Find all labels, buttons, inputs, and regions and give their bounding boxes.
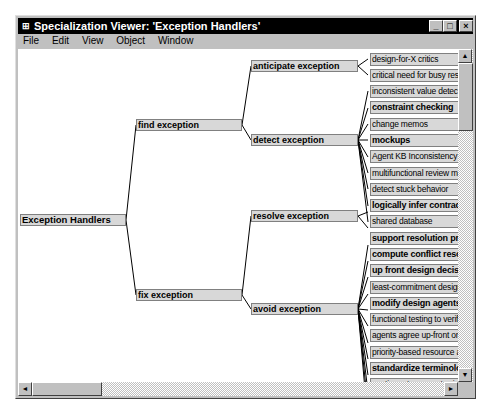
minimize-button[interactable]: _ bbox=[429, 20, 443, 32]
leaf-node[interactable]: inconsistent value detection bbox=[370, 85, 458, 98]
leaf-node[interactable]: agents agree up-front on coordination bbox=[370, 329, 458, 342]
menu-view[interactable]: View bbox=[77, 34, 109, 48]
tree-node-detect-exception[interactable]: detect exception bbox=[251, 134, 358, 146]
leaf-node[interactable]: compute conflict resolution bbox=[370, 248, 458, 261]
scroll-right-button[interactable]: ► bbox=[444, 382, 458, 396]
leaf-node[interactable]: priority-based resource allocation bbox=[370, 346, 458, 359]
scroll-left-button[interactable]: ◄ bbox=[18, 382, 32, 396]
horizontal-scrollbar[interactable]: ◄ ► bbox=[18, 382, 458, 396]
title-bar[interactable]: ⊞ Specialization Viewer: 'Exception Hand… bbox=[18, 18, 473, 34]
vertical-scrollbar[interactable]: ▲ ▼ bbox=[458, 49, 473, 382]
menu-bar: File Edit View Object Window bbox=[18, 34, 473, 48]
leaf-node[interactable]: critical need for busy resources bbox=[370, 69, 458, 82]
leaf-node[interactable]: functional testing to verify services bbox=[370, 313, 458, 326]
leaf-node[interactable]: Agent KB Inconsistency Detect bbox=[370, 150, 458, 163]
vertical-scroll-thumb[interactable] bbox=[458, 63, 473, 131]
leaf-node[interactable]: shared database bbox=[370, 215, 458, 228]
close-button[interactable]: × bbox=[459, 20, 473, 32]
leaf-node[interactable]: detect stuck behavior bbox=[370, 183, 458, 196]
leaf-node[interactable]: multifunctional review meetings bbox=[370, 167, 458, 180]
leaf-node[interactable]: mockups bbox=[370, 134, 458, 147]
tree-canvas: Exception Handlers find exception fix ex… bbox=[18, 49, 458, 382]
tree-node-find-exception[interactable]: find exception bbox=[136, 119, 242, 131]
scrollbar-corner bbox=[458, 382, 473, 396]
leaf-node[interactable]: design-for-X critics bbox=[370, 53, 458, 66]
menu-file[interactable]: File bbox=[18, 34, 44, 48]
specialization-viewer-window: ⊞ Specialization Viewer: 'Exception Hand… bbox=[15, 15, 476, 399]
maximize-button[interactable]: □ bbox=[443, 20, 457, 32]
leaf-node[interactable]: change memos bbox=[370, 118, 458, 131]
horizontal-scroll-thumb[interactable] bbox=[32, 382, 102, 396]
tree-node-resolve-exception[interactable]: resolve exception bbox=[251, 210, 358, 222]
leaf-node[interactable]: support resolution process bbox=[370, 232, 458, 245]
app-icon[interactable]: ⊞ bbox=[20, 20, 32, 32]
menu-window[interactable]: Window bbox=[153, 34, 199, 48]
leaf-node[interactable]: least-commitment design bbox=[370, 281, 458, 294]
tree-node-fix-exception[interactable]: fix exception bbox=[136, 289, 242, 301]
leaf-node[interactable]: constraint checking bbox=[370, 101, 458, 114]
leaf-node[interactable]: up front design decisions bbox=[370, 264, 458, 277]
menu-object[interactable]: Object bbox=[111, 34, 150, 48]
scroll-up-button[interactable]: ▲ bbox=[458, 49, 472, 63]
leaf-node[interactable]: standardize terminology bbox=[370, 362, 458, 375]
scroll-down-button[interactable]: ▼ bbox=[458, 368, 472, 382]
leaf-node[interactable]: modify design agents bbox=[370, 297, 458, 310]
leaf-node[interactable]: logically infer contradiction bbox=[370, 199, 458, 212]
tree-node-avoid-exception[interactable]: avoid exception bbox=[251, 303, 358, 315]
tree-node-root[interactable]: Exception Handlers bbox=[20, 214, 126, 226]
menu-edit[interactable]: Edit bbox=[47, 34, 74, 48]
tree-node-anticipate-exception[interactable]: anticipate exception bbox=[251, 60, 358, 72]
window-title: Specialization Viewer: 'Exception Handle… bbox=[34, 18, 260, 34]
